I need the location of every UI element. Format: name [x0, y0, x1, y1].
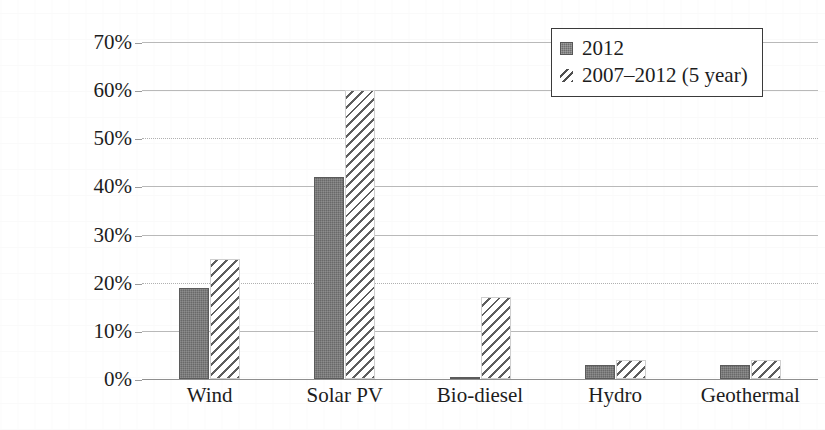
legend-swatch-hatched-icon — [560, 69, 573, 82]
y-tick-label: 10% — [94, 318, 133, 343]
y-tick-label: 60% — [94, 78, 133, 103]
y-tick-mark — [135, 284, 142, 285]
legend-item-2012: 2012 — [560, 35, 748, 62]
y-tick-mark — [135, 236, 142, 237]
legend-label: 2012 — [582, 38, 624, 59]
legend-swatch-solid-icon — [560, 42, 573, 55]
y-tick-mark — [135, 139, 142, 140]
gridline-0 — [142, 379, 818, 380]
x-tick-label-bio-diesel: Bio-diesel — [437, 383, 523, 408]
x-tick-label-solar-pv: Solar PV — [307, 383, 383, 408]
x-tick-label-hydro: Hydro — [588, 383, 642, 408]
y-tick-mark — [135, 187, 142, 188]
x-axis-tick-labels: WindSolar PVBio-dieselHydroGeothermal — [142, 383, 818, 423]
legend-item-2007-2012: 2007–2012 (5 year) — [560, 62, 748, 89]
bar-solar-pv-2012 — [314, 177, 344, 379]
bar-geothermal-5year — [751, 360, 781, 379]
y-tick-label: 0% — [104, 367, 132, 392]
x-tick-label-geothermal: Geothermal — [701, 383, 800, 408]
x-tick-label-wind: Wind — [187, 383, 233, 408]
y-tick-label: 20% — [94, 270, 133, 295]
bar-group-solar-pv — [314, 42, 375, 379]
y-tick-label: 70% — [94, 30, 133, 55]
bar-group-bio-diesel — [450, 42, 511, 379]
bar-solar-pv-5year — [345, 90, 375, 379]
y-tick-label: 40% — [94, 174, 133, 199]
y-tick-label: 30% — [94, 222, 133, 247]
bar-bio-diesel-2012 — [450, 377, 480, 379]
bar-hydro-2012 — [585, 365, 615, 379]
y-tick-label: 50% — [94, 126, 133, 151]
y-tick-mark — [135, 332, 142, 333]
chart-legend: 20122007–2012 (5 year) — [551, 28, 763, 97]
y-tick-mark — [135, 380, 142, 381]
bar-group-wind — [179, 42, 240, 379]
bar-bio-diesel-5year — [481, 297, 511, 379]
legend-label: 2007–2012 (5 year) — [582, 65, 748, 86]
bar-wind-2012 — [179, 288, 209, 379]
bar-hydro-5year — [616, 360, 646, 379]
bar-geothermal-2012 — [720, 365, 750, 379]
y-axis-tick-labels: 0%10%20%30%40%50%60%70% — [38, 42, 142, 379]
y-tick-mark — [135, 43, 142, 44]
y-tick-mark — [135, 91, 142, 92]
bar-wind-5year — [210, 259, 240, 379]
bar-chart: Growth rate of installed capacity 0%10%2… — [0, 0, 825, 430]
